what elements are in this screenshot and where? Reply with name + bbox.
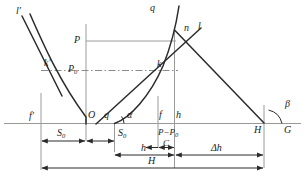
beta-angle-arc xyxy=(269,110,283,124)
label-k-prime: k′ xyxy=(44,58,51,68)
label-G: G xyxy=(284,125,291,135)
label-P: P xyxy=(74,35,80,45)
label-n: n xyxy=(184,23,189,33)
label-S0-left: S0 xyxy=(57,128,65,138)
label-f: f xyxy=(159,110,162,120)
label-k: k xyxy=(157,59,161,69)
label-S0-right: S0 xyxy=(118,128,126,138)
line-l-prime xyxy=(22,16,62,96)
line-l-through-n xyxy=(96,28,201,124)
label-C: C xyxy=(163,139,169,148)
label-beta: β xyxy=(285,99,290,109)
label-h-vertical: h xyxy=(176,110,181,120)
right-ascending-curve xyxy=(115,6,180,124)
label-f-prime: f′ xyxy=(29,111,34,121)
label-l-prime: l′ xyxy=(16,6,21,16)
label-O: O xyxy=(88,110,95,120)
label-H-dimension: H xyxy=(148,156,155,166)
label-P-minus-P0: P−P0 xyxy=(158,128,178,137)
label-q-top: q xyxy=(150,3,155,13)
label-P0: P0 xyxy=(68,64,77,74)
label-h-dimension: h xyxy=(141,143,146,153)
descending-limb-n-to-G xyxy=(175,30,265,123)
label-alpha: α xyxy=(127,110,132,120)
left-descending-curve xyxy=(30,14,86,124)
label-l: l xyxy=(198,21,201,31)
label-delta-h-dimension: Δh xyxy=(211,143,222,153)
label-q-axis: q xyxy=(104,110,109,120)
figure-canvas: l′ k′ f′ P P0 q n l k O q α β f h H G P−… xyxy=(0,0,305,192)
label-H-axis: H xyxy=(254,125,261,135)
